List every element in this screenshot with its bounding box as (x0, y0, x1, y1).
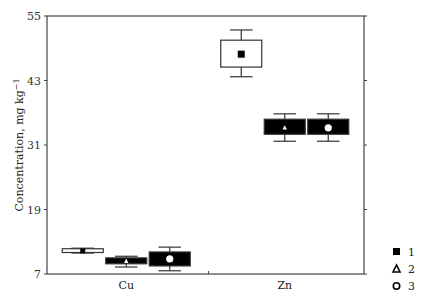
category-label-zn: Zn (277, 279, 292, 292)
square-marker-icon (80, 248, 85, 253)
box-plot-chart: 719314355Concentration, mg kg−1CuZn 123 (0, 0, 426, 304)
square-marker-icon (238, 51, 245, 58)
box-cu-3 (149, 247, 190, 271)
box-zn-1 (221, 30, 262, 77)
y-axis-label: Concentration, mg kg−1 (12, 78, 26, 211)
y-tick-label: 19 (27, 204, 41, 217)
box-zn-3 (308, 114, 349, 141)
legend-label: 3 (408, 280, 415, 293)
box-cu-2 (106, 256, 147, 267)
circle-marker-icon (166, 255, 173, 262)
box-series (62, 30, 349, 271)
y-tick-label: 7 (34, 268, 41, 281)
circle-marker-icon (325, 124, 332, 131)
legend-circle-icon (393, 283, 399, 289)
legend-item-2: 2 (393, 263, 415, 276)
category-label-cu: Cu (118, 279, 134, 292)
y-tick-label: 43 (27, 75, 41, 88)
legend-triangle-icon (393, 265, 400, 272)
legend-square-icon (393, 248, 400, 255)
plot-frame (47, 16, 364, 274)
legend: 123 (393, 246, 415, 293)
y-tick-label: 31 (27, 139, 41, 152)
y-tick-label: 55 (27, 10, 41, 23)
legend-item-1: 1 (393, 246, 415, 259)
box-zn-2 (264, 114, 305, 141)
legend-label: 1 (408, 246, 415, 259)
box-cu-1 (62, 248, 103, 253)
legend-item-3: 3 (393, 280, 415, 293)
legend-label: 2 (408, 263, 415, 276)
